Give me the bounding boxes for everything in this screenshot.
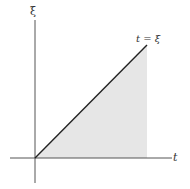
integration-region-diagram: ξ t t = ξ — [0, 0, 190, 189]
vertical-axis-label: ξ — [30, 6, 36, 17]
diagram-svg — [0, 0, 190, 189]
horizontal-axis-label: t — [173, 152, 177, 163]
line-label: t = ξ — [136, 34, 160, 44]
